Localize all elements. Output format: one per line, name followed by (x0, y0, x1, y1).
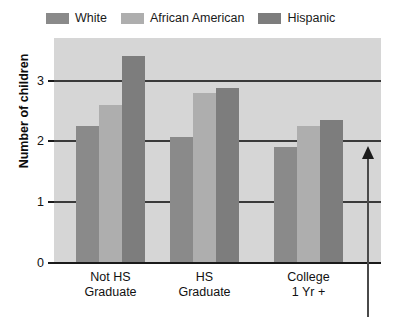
bar (99, 105, 122, 263)
bar (297, 126, 320, 263)
legend-entry-african-american: African American (121, 12, 244, 25)
bar-chart: White African American Hispanic Number o… (0, 0, 416, 317)
chart-legend: White African American Hispanic (46, 12, 349, 25)
legend-swatch-african-american (121, 13, 144, 24)
gridline-3 (54, 80, 381, 82)
x-axis-line (54, 262, 381, 264)
legend-swatch-hispanic (258, 13, 281, 24)
x-category-label: College1 Yr + (249, 270, 369, 300)
bar (193, 93, 216, 263)
legend-label-african-american: African American (150, 12, 244, 25)
bar (170, 137, 193, 263)
bar (216, 88, 239, 263)
legend-label-hispanic: Hispanic (287, 12, 335, 25)
x-category-label-line: 1 Yr + (249, 285, 369, 300)
bar (274, 147, 297, 263)
y-tick-label-2: 2 (26, 134, 44, 148)
bar (122, 56, 145, 263)
y-tick-label-1: 1 (26, 195, 44, 209)
plot-area (54, 38, 381, 263)
y-axis-title: Number of children (17, 31, 31, 191)
bar (76, 126, 99, 263)
y-tick-label-0: 0 (26, 256, 44, 270)
x-category-label-line: HS (145, 270, 265, 285)
legend-entry-white: White (46, 12, 107, 25)
annotation-arrow-line (367, 154, 369, 317)
legend-swatch-white (46, 13, 69, 24)
legend-label-white: White (75, 12, 107, 25)
x-category-label-line: College (249, 270, 369, 285)
legend-entry-hispanic: Hispanic (258, 12, 335, 25)
x-category-label-line: Graduate (145, 285, 265, 300)
annotation-arrow-head-icon (362, 146, 374, 159)
y-tick-label-3: 3 (26, 74, 44, 88)
x-category-label: HSGraduate (145, 270, 265, 300)
bar (320, 120, 343, 263)
